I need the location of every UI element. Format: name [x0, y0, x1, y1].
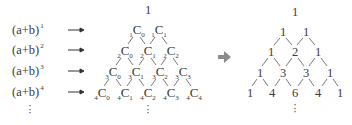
pascal-number: 3: [280, 66, 286, 81]
pascal-number: 2: [292, 45, 298, 60]
combination-term: 3C3: [175, 64, 191, 81]
combination-term: 4C0: [94, 85, 110, 102]
connector-lines: [0, 0, 352, 125]
expression-base: (a+b): [12, 85, 39, 99]
expansion-row: (a+b)3: [12, 63, 44, 79]
combination-term: 2C0: [117, 43, 133, 60]
combination-term: 4C1: [117, 85, 133, 102]
combination-term: 3C2: [152, 64, 168, 81]
exponent: 4: [40, 84, 44, 92]
vertical-ellipsis: ···: [293, 103, 297, 114]
pascal-number: 1: [247, 86, 253, 101]
row-arrow-icons: [68, 28, 84, 94]
triangle-apex: 1: [292, 5, 298, 20]
pascal-number: 1: [337, 86, 343, 101]
expansion-row: (a+b)4: [12, 84, 44, 100]
pascal-number: 1: [327, 66, 333, 81]
expression-base: (a+b): [12, 64, 39, 78]
combination-term: 4C4: [186, 85, 202, 102]
combination-term: 4C3: [163, 85, 179, 102]
pascal-number: 1: [280, 25, 286, 40]
expansion-row: (a+b)2: [12, 42, 44, 58]
expression-base: (a+b): [12, 43, 39, 57]
combination-term: 1C0: [129, 22, 145, 39]
exponent: 3: [40, 63, 44, 71]
pascal-number: 4: [315, 86, 321, 101]
vertical-ellipsis: ···: [146, 104, 150, 115]
combination-term: 3C1: [128, 64, 144, 81]
pascal-number: 3: [303, 66, 309, 81]
triangle-apex: 1: [145, 3, 151, 18]
combination-term: 2C1: [140, 43, 156, 60]
combination-term: 1C1: [151, 22, 167, 39]
pascal-number: 4: [269, 86, 275, 101]
combination-term: 3C0: [105, 64, 121, 81]
combination-term: 2C2: [163, 43, 179, 60]
pascal-number: 1: [268, 45, 274, 60]
pascal-number: 1: [303, 25, 309, 40]
exponent: 1: [40, 22, 44, 30]
transition-arrow-icon: [218, 51, 231, 63]
expansion-row: (a+b)1: [12, 22, 44, 38]
expression-base: (a+b): [12, 23, 39, 37]
pascal-number: 1: [315, 45, 321, 60]
pascal-number: 1: [257, 66, 263, 81]
vertical-ellipsis: ···: [28, 104, 32, 115]
exponent: 2: [40, 42, 44, 50]
